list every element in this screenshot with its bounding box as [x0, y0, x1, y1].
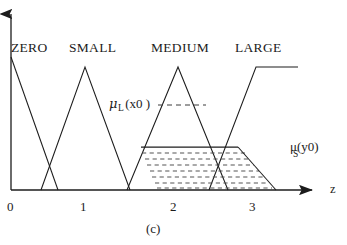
x-tick-label-0: 0: [7, 200, 14, 213]
x-tick-label-2: 2: [170, 200, 177, 213]
annotation-mu-l-x0: μL(x0 ): [109, 97, 150, 111]
x-tick-label-1: 1: [80, 200, 87, 213]
x-axis-label: z: [330, 183, 336, 196]
mu-argument-x0: (x0 ): [124, 96, 150, 111]
figure-caption: (c): [146, 222, 160, 235]
set-label-small: SMALL: [69, 41, 116, 55]
annotation-mu-s-y0: μ(y0) S: [290, 140, 319, 160]
x-tick-label-3: 3: [249, 200, 256, 213]
clip-right-edge: [238, 147, 276, 190]
clipped-region: [141, 147, 276, 190]
membership-curves: [11, 57, 298, 190]
set-label-zero: ZERO: [11, 41, 47, 55]
hatch-lines: [142, 153, 272, 188]
curve-zero: [11, 57, 58, 190]
set-label-medium: MEDIUM: [151, 41, 209, 55]
curve-medium: [127, 67, 228, 190]
set-label-large: LARGE: [235, 41, 282, 55]
mu-argument-y0: (y0): [297, 139, 319, 154]
curve-large: [209, 67, 298, 190]
curve-small: [41, 67, 130, 190]
mu-subscript-l: L: [117, 103, 123, 113]
